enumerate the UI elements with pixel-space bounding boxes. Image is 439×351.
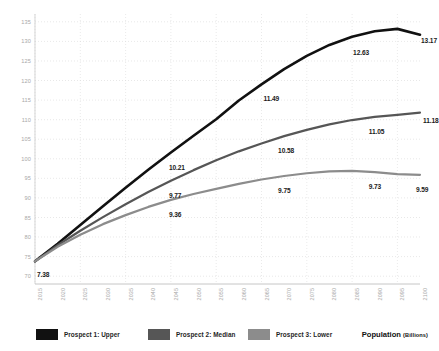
x-axis-tick: 2020 [60, 288, 66, 300]
data-point-label: 12.63 [353, 49, 369, 56]
y-axis-tick: 110 [7, 117, 31, 123]
x-axis-tick: 2080 [331, 288, 337, 300]
x-axis-tick: 2065 [264, 288, 270, 300]
data-point-label: 9.75 [278, 187, 290, 194]
y-axis-tick: 85 [7, 215, 31, 221]
y-axis-tick: 135 [7, 19, 31, 25]
y-axis-tick: 130 [7, 38, 31, 44]
y-axis-tick: 100 [7, 156, 31, 162]
data-point-label: 13.17 [421, 37, 437, 44]
x-axis-tick: 2015 [37, 288, 43, 300]
y-axis-tick: 125 [7, 58, 31, 64]
x-axis-tick: 2095 [399, 288, 405, 300]
data-point-label: 10.58 [278, 147, 294, 154]
data-point-label: 9.73 [369, 183, 381, 190]
series-line [35, 29, 420, 261]
x-axis-tick: 2055 [218, 288, 224, 300]
chart-legend: Population (Billions) Prospect 1: UpperP… [0, 326, 434, 348]
data-point-label: 11.49 [264, 95, 280, 102]
data-point-label: 11.18 [423, 117, 439, 124]
x-axis-tick: 2050 [196, 288, 202, 300]
data-point-label: 10.21 [169, 164, 185, 171]
x-axis-tick: 2085 [354, 288, 360, 300]
y-axis-tick: 80 [7, 234, 31, 240]
y-axis-tick: 70 [7, 273, 31, 279]
y-axis-tick: 105 [7, 136, 31, 142]
x-axis-tick: 2030 [105, 288, 111, 300]
data-point-label: 9.59 [416, 186, 428, 193]
legend-item[interactable]: Prospect 3: Lower [248, 329, 332, 340]
data-point-label: 9.36 [169, 211, 181, 218]
data-point-label: 7.38 [37, 271, 49, 278]
legend-swatch-icon [248, 329, 270, 340]
data-point-label: 9.77 [169, 192, 181, 199]
x-axis-tick: 2040 [150, 288, 156, 300]
axis-title-unit: (Billions) [403, 332, 428, 338]
x-axis-tick: 2090 [377, 288, 383, 300]
x-axis-tick: 2025 [82, 288, 88, 300]
legend-label: Prospect 3: Lower [276, 331, 332, 338]
y-axis-tick: 90 [7, 195, 31, 201]
legend-item[interactable]: Prospect 1: Upper [36, 329, 120, 340]
legend-label: Prospect 1: Upper [64, 331, 120, 338]
legend-swatch-icon [36, 329, 58, 340]
x-axis-tick: 2075 [309, 288, 315, 300]
y-axis-tick: 75 [7, 254, 31, 260]
axis-title-main: Population [362, 330, 401, 339]
y-axis-tick: 120 [7, 78, 31, 84]
x-axis-tick: 2100 [422, 288, 428, 300]
y-axis-tick: 115 [7, 97, 31, 103]
legend-item[interactable]: Prospect 2: Median [148, 329, 236, 340]
x-axis-tick: 2035 [128, 288, 134, 300]
axis-title: Population (Billions) [362, 330, 428, 339]
x-axis-tick: 2045 [173, 288, 179, 300]
x-axis-tick-labels: 2015202020252030203520402045205020552060… [0, 288, 434, 316]
x-axis-tick: 2060 [241, 288, 247, 300]
data-point-label: 11.05 [369, 128, 385, 135]
legend-swatch-icon [148, 329, 170, 340]
y-axis-tick: 95 [7, 175, 31, 181]
x-axis-tick: 2070 [286, 288, 292, 300]
legend-label: Prospect 2: Median [176, 331, 236, 338]
